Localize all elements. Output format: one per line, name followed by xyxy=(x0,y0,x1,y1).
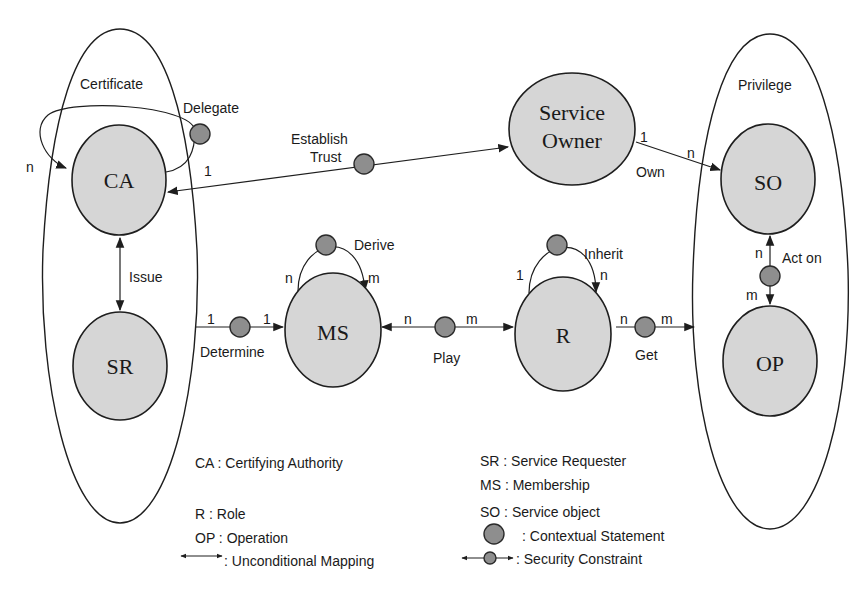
security-constraint-legend-icon xyxy=(484,552,496,564)
certificate-label: Certificate xyxy=(80,76,143,92)
act-on-card-n: n xyxy=(755,245,763,261)
own-card-1: 1 xyxy=(640,129,648,145)
establish-trust-statement-dot xyxy=(354,154,374,174)
legend-ms: MS : Membership xyxy=(480,477,590,493)
delegate-label: Delegate xyxy=(183,100,239,116)
contextual-statement-legend-icon xyxy=(484,524,504,544)
legend-contextual: : Contextual Statement xyxy=(522,528,665,544)
determine-card-from: 1 xyxy=(207,311,215,327)
node-service-owner-label-1: Service xyxy=(539,100,605,125)
play-card-n: n xyxy=(404,311,412,327)
delegate-card-n: n xyxy=(26,159,34,175)
get-label: Get xyxy=(635,347,658,363)
get-statement-dot xyxy=(635,317,655,337)
node-ms: MS xyxy=(285,273,381,387)
node-service-owner: Service Owner xyxy=(509,73,635,185)
act-on-label: Act on xyxy=(782,250,822,266)
inherit-card-n: n xyxy=(600,267,608,283)
node-so: SO xyxy=(721,124,815,234)
derive-label: Derive xyxy=(354,237,395,253)
determine-statement-dot xyxy=(230,317,250,337)
own-label: Own xyxy=(636,164,665,180)
play-label: Play xyxy=(433,350,460,366)
node-ca: CA xyxy=(72,125,166,235)
get-card-m: m xyxy=(661,311,673,327)
get-card-n: n xyxy=(620,311,628,327)
derive-card-m: m xyxy=(368,270,380,286)
play-card-m: m xyxy=(466,311,478,327)
act-on-statement-dot xyxy=(760,266,780,286)
node-sr: SR xyxy=(73,312,167,420)
issue-label: Issue xyxy=(129,269,163,285)
rbac-diagram: Certificate Privilege Delegate n 1 Estab… xyxy=(0,0,864,598)
node-so-label: SO xyxy=(754,170,782,195)
node-ms-label: MS xyxy=(317,320,349,345)
inherit-statement-dot xyxy=(547,235,567,255)
node-op-label: OP xyxy=(756,351,784,376)
derive-statement-dot xyxy=(316,235,336,255)
delegate-statement-dot xyxy=(190,124,210,144)
delegate-card-1: 1 xyxy=(204,163,212,179)
node-r-label: R xyxy=(556,323,571,348)
legend-r: R : Role xyxy=(195,506,246,522)
legend-ca: CA : Certifying Authority xyxy=(195,455,343,471)
node-r: R xyxy=(515,277,611,391)
legend-unconditional: : Unconditional Mapping xyxy=(224,553,374,569)
establish-trust-label-1: Establish xyxy=(291,131,348,147)
legend-so: SO : Service object xyxy=(480,504,600,520)
node-sr-label: SR xyxy=(107,354,134,379)
determine-label: Determine xyxy=(200,344,265,360)
own-card-n: n xyxy=(687,145,695,161)
act-on-card-m: m xyxy=(746,287,758,303)
node-ca-label: CA xyxy=(104,168,135,193)
legend-op: OP : Operation xyxy=(195,530,288,546)
play-statement-dot xyxy=(435,317,455,337)
derive-card-n: n xyxy=(285,270,293,286)
privilege-label: Privilege xyxy=(738,77,792,93)
legend-security: : Security Constraint xyxy=(516,551,642,567)
inherit-card-1: 1 xyxy=(516,267,524,283)
legend-sr: SR : Service Requester xyxy=(480,453,627,469)
inherit-label: Inherit xyxy=(584,246,623,262)
establish-trust-label-2: Trust xyxy=(310,149,341,165)
legend: CA : Certifying Authority R : Role OP : … xyxy=(181,453,665,569)
determine-card-to: 1 xyxy=(263,311,271,327)
node-service-owner-label-2: Owner xyxy=(542,128,603,153)
node-op: OP xyxy=(723,306,817,416)
